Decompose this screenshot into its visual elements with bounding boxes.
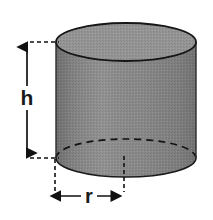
height-label: h [21,86,34,109]
cylinder-figure: h r [0,0,213,220]
height-dimension: h [19,42,59,158]
cylinder-body-shading [56,42,196,177]
cylinder-solid [56,23,196,177]
radius-label: r [85,185,93,207]
cylinder-top-face [56,23,196,61]
cylinder-diagram-canvas: h r [0,0,213,220]
